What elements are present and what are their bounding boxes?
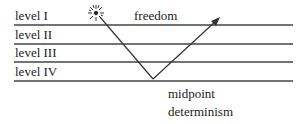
starburst-icon: [88, 5, 104, 21]
level-label-4: level IV: [15, 65, 57, 79]
freedom-label: freedom: [134, 9, 177, 23]
midpoint-label: midpoint: [168, 87, 215, 101]
descent-line: [100, 17, 153, 79]
level-label-2: level II: [15, 28, 52, 42]
ascent-line: [153, 20, 217, 79]
level-label-3: level III: [15, 46, 57, 60]
level-label-1: level I: [15, 9, 48, 23]
determinism-label: determinism: [168, 105, 233, 119]
